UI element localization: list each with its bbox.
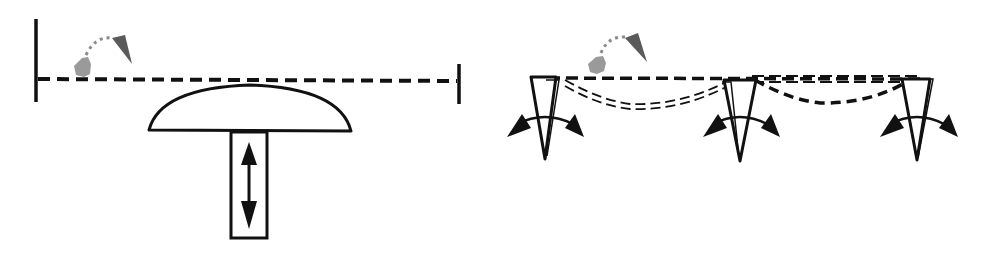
diagram-canvas bbox=[0, 0, 988, 254]
hopping-object-icon bbox=[74, 35, 132, 77]
membrane-dashed-line bbox=[38, 79, 457, 81]
rotating-actuator-3 bbox=[880, 79, 958, 160]
left-panel bbox=[36, 19, 459, 238]
membrane-wave-1 bbox=[565, 80, 728, 109]
mushroom-cap bbox=[149, 85, 351, 131]
right-panel bbox=[507, 33, 958, 161]
hopping-object-icon bbox=[588, 33, 647, 74]
membrane-wave-2 bbox=[755, 80, 908, 103]
